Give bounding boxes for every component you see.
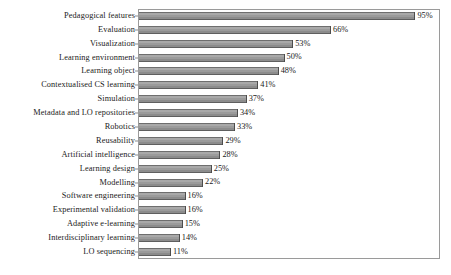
bar-row: Modelling22% bbox=[0, 176, 451, 190]
category-label: Artificial intelligence bbox=[62, 151, 135, 159]
bar-container: 29% bbox=[139, 137, 241, 145]
bar-row: Learning design25% bbox=[0, 162, 451, 176]
value-label: 25% bbox=[214, 165, 229, 173]
axis-tick bbox=[135, 224, 138, 225]
axis-tick bbox=[135, 168, 138, 169]
bar-container: 37% bbox=[139, 95, 264, 103]
axis-tick bbox=[135, 15, 138, 16]
bar-row: Evaluation66% bbox=[0, 23, 451, 37]
value-label: 16% bbox=[188, 206, 203, 214]
category-label: Contextualised CS learning bbox=[41, 81, 135, 89]
bar-container: 16% bbox=[139, 206, 203, 214]
bar-container: 16% bbox=[139, 192, 203, 200]
value-label: 33% bbox=[237, 123, 252, 131]
category-label: LO sequencing bbox=[83, 248, 135, 256]
bar-row: Metadata and LO repositories34% bbox=[0, 106, 451, 120]
bar bbox=[139, 40, 293, 48]
axis-tick bbox=[135, 99, 138, 100]
bar-container: 28% bbox=[139, 151, 238, 159]
bar-row: Reusability29% bbox=[0, 134, 451, 148]
axis-tick bbox=[135, 196, 138, 197]
bar-row: Learning environment50% bbox=[0, 51, 451, 65]
category-label: Learning environment bbox=[59, 53, 135, 61]
value-label: 22% bbox=[205, 178, 220, 186]
bar-row: Robotics33% bbox=[0, 120, 451, 134]
category-label: Simulation bbox=[98, 95, 135, 103]
bar bbox=[139, 12, 415, 20]
bar bbox=[139, 206, 186, 214]
axis-tick bbox=[135, 252, 138, 253]
category-label: Metadata and LO repositories bbox=[33, 109, 135, 117]
value-label: 14% bbox=[182, 234, 197, 242]
value-label: 11% bbox=[173, 248, 188, 256]
bar-container: 33% bbox=[139, 123, 252, 131]
bar bbox=[139, 54, 285, 62]
value-label: 29% bbox=[225, 137, 240, 145]
bar bbox=[139, 81, 258, 89]
axis-tick bbox=[135, 57, 138, 58]
value-label: 48% bbox=[281, 67, 296, 75]
bar-row: Software engineering16% bbox=[0, 190, 451, 204]
bar-container: 22% bbox=[139, 179, 220, 187]
category-label: Modelling bbox=[100, 178, 135, 186]
bar-container: 41% bbox=[139, 81, 276, 89]
axis-tick bbox=[135, 154, 138, 155]
value-label: 95% bbox=[417, 12, 432, 20]
bar bbox=[139, 109, 238, 117]
bar-row: Pedagogical features95% bbox=[0, 9, 451, 23]
category-label: Reusability bbox=[96, 137, 135, 145]
value-label: 53% bbox=[295, 40, 310, 48]
axis-tick bbox=[135, 71, 138, 72]
bar bbox=[139, 123, 235, 131]
value-label: 16% bbox=[188, 192, 203, 200]
bar bbox=[139, 220, 183, 228]
bar bbox=[139, 192, 186, 200]
bar bbox=[139, 165, 212, 173]
category-label: Learning object bbox=[81, 67, 135, 75]
bar-row: Adaptive e-learning15% bbox=[0, 217, 451, 231]
bar-container: 48% bbox=[139, 67, 296, 75]
bar-container: 15% bbox=[139, 220, 200, 228]
value-label: 34% bbox=[240, 109, 255, 117]
bar-container: 11% bbox=[139, 248, 188, 256]
bar-container: 34% bbox=[139, 109, 255, 117]
value-label: 41% bbox=[260, 81, 275, 89]
bar bbox=[139, 248, 171, 256]
bar bbox=[139, 151, 220, 159]
bar bbox=[139, 95, 247, 103]
bar-container: 14% bbox=[139, 234, 197, 242]
category-label: Pedagogical features bbox=[64, 12, 135, 20]
bar-row: Visualization53% bbox=[0, 37, 451, 51]
bar-container: 50% bbox=[139, 54, 302, 62]
category-label: Visualization bbox=[90, 40, 135, 48]
axis-tick bbox=[135, 210, 138, 211]
bar-container: 53% bbox=[139, 40, 310, 48]
category-label: Interdisciplinary learning bbox=[48, 234, 135, 242]
axis-tick bbox=[135, 29, 138, 30]
value-label: 66% bbox=[333, 26, 348, 34]
bar-row: Interdisciplinary learning14% bbox=[0, 231, 451, 245]
category-label: Experimental validation bbox=[53, 206, 135, 214]
horizontal-bar-chart: Pedagogical features95%Evaluation66%Visu… bbox=[0, 0, 451, 275]
axis-tick bbox=[135, 113, 138, 114]
value-label: 37% bbox=[249, 95, 264, 103]
bar bbox=[139, 179, 203, 187]
bar-container: 95% bbox=[139, 12, 433, 20]
category-label: Software engineering bbox=[62, 192, 135, 200]
value-label: 50% bbox=[287, 53, 302, 61]
bar-row: Simulation37% bbox=[0, 92, 451, 106]
axis-tick bbox=[135, 238, 138, 239]
bar bbox=[139, 26, 331, 34]
bar-row: Experimental validation16% bbox=[0, 203, 451, 217]
bar bbox=[139, 234, 180, 242]
axis-tick bbox=[135, 140, 138, 141]
category-label: Learning design bbox=[80, 165, 135, 173]
bar-container: 25% bbox=[139, 165, 229, 173]
axis-tick bbox=[135, 127, 138, 128]
value-label: 15% bbox=[185, 220, 200, 228]
bar bbox=[139, 67, 279, 75]
bar-row: LO sequencing11% bbox=[0, 245, 451, 259]
bar-row: Contextualised CS learning41% bbox=[0, 78, 451, 92]
bar bbox=[139, 137, 223, 145]
category-label: Adaptive e-learning bbox=[67, 220, 135, 228]
